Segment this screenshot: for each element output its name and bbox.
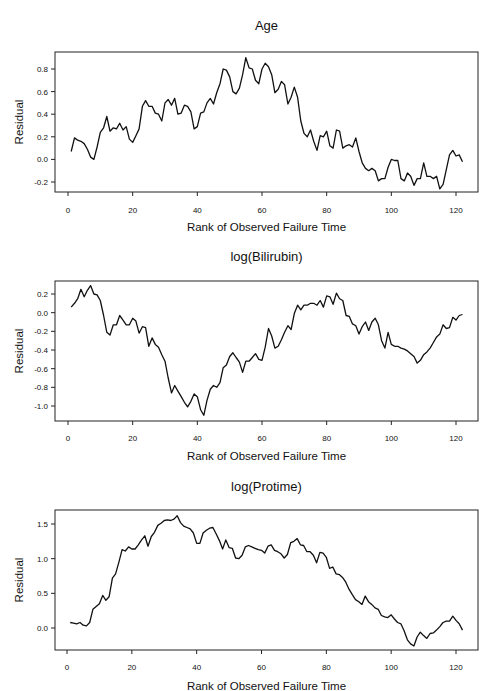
x-tick-label: 20: [128, 206, 137, 215]
x-axis-label: Rank of Observed Failure Time: [187, 221, 346, 233]
x-tick-label: 20: [128, 434, 137, 443]
x-tick-label: 60: [258, 434, 267, 443]
x-tick-label: 60: [257, 663, 266, 672]
y-tick-label: 0.2: [37, 133, 49, 142]
y-tick-label: -0.6: [34, 365, 48, 374]
y-tick-label: 0.0: [37, 624, 49, 633]
x-tick-label: 0: [65, 663, 70, 672]
x-tick-label: 40: [193, 434, 202, 443]
residual-line: [71, 58, 462, 189]
plot-frame: [55, 510, 478, 650]
y-tick-label: -0.8: [34, 383, 48, 392]
y-tick-label: 1.5: [37, 520, 49, 529]
chart-panel-0: Age-0.20.00.20.40.60.8020406080100120Res…: [13, 18, 478, 233]
chart-panel-2: log(Protime)0.00.51.01.5020406080100120R…: [13, 479, 478, 691]
chart-title: log(Protime): [231, 479, 302, 494]
x-tick-label: 100: [385, 434, 399, 443]
y-tick-label: 1.0: [37, 555, 49, 564]
x-tick-label: 80: [322, 663, 331, 672]
chart-title: Age: [255, 18, 278, 33]
chart-title: log(Bilirubin): [230, 249, 302, 264]
x-tick-label: 100: [384, 663, 398, 672]
plot-frame: [55, 281, 478, 421]
x-tick-label: 0: [66, 434, 71, 443]
y-tick-label: 0.2: [37, 290, 49, 299]
x-tick-label: 60: [258, 206, 267, 215]
x-axis-label: Rank of Observed Failure Time: [187, 680, 346, 691]
residual-plots-svg: Age-0.20.00.20.40.60.8020406080100120Res…: [0, 0, 495, 691]
y-axis-label: Residual: [13, 100, 25, 145]
y-tick-label: 0.6: [37, 88, 49, 97]
plot-frame: [55, 52, 478, 192]
x-tick-label: 40: [193, 206, 202, 215]
x-tick-label: 80: [322, 206, 331, 215]
x-tick-label: 80: [322, 434, 331, 443]
x-tick-label: 100: [385, 206, 399, 215]
figure: Age-0.20.00.20.40.60.8020406080100120Res…: [0, 0, 495, 691]
y-tick-label: 0.4: [37, 110, 49, 119]
y-tick-label: 0.0: [37, 155, 49, 164]
y-tick-label: -0.4: [34, 346, 48, 355]
x-tick-label: 20: [127, 663, 136, 672]
residual-line: [70, 516, 462, 646]
y-axis-label: Residual: [13, 558, 25, 603]
x-axis-label: Rank of Observed Failure Time: [187, 450, 346, 462]
x-tick-label: 40: [192, 663, 201, 672]
y-tick-label: 0.8: [37, 65, 49, 74]
y-axis-label: Residual: [13, 329, 25, 374]
x-tick-label: 120: [449, 663, 463, 672]
x-tick-label: 120: [449, 434, 463, 443]
chart-panel-1: log(Bilirubin)-1.0-0.8-0.6-0.4-0.20.00.2…: [13, 249, 478, 462]
x-tick-label: 120: [449, 206, 463, 215]
x-tick-label: 0: [66, 206, 71, 215]
y-tick-label: 0.5: [37, 589, 49, 598]
y-tick-label: 0.0: [37, 309, 49, 318]
y-tick-label: -0.2: [34, 327, 48, 336]
residual-line: [71, 286, 462, 416]
y-tick-label: -1.0: [34, 402, 48, 411]
y-tick-label: -0.2: [34, 178, 48, 187]
